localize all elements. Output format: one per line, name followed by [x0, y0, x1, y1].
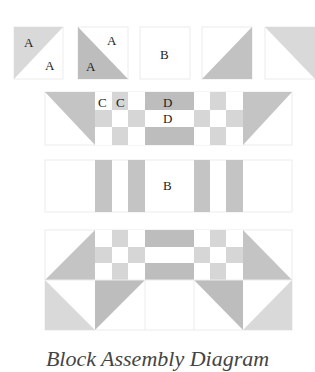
- unit-hst-light-top-left: A A: [14, 27, 63, 79]
- unit-triangle-dark-bottom-right: [202, 27, 252, 79]
- label-c1: C: [98, 95, 107, 110]
- bottom-assembly: [45, 230, 292, 330]
- diagram-caption: Block Assembly Diagram: [0, 346, 315, 372]
- label-d1: D: [163, 95, 172, 110]
- label-b-middle: B: [163, 178, 172, 193]
- top-strip: C C D D: [45, 92, 292, 145]
- label-d2: D: [163, 111, 172, 126]
- unit1-label-top: A: [24, 35, 34, 50]
- unit1-label-bottom: A: [45, 58, 55, 73]
- unit-square-b: B: [140, 27, 190, 79]
- unit2-label-top: A: [107, 33, 117, 48]
- unit-triangle-light-top-right: [265, 27, 315, 79]
- unit2-label-bottom: A: [86, 59, 96, 74]
- label-c2: C: [116, 95, 125, 110]
- units-row: A A A A B: [14, 27, 315, 79]
- middle-strip: B: [45, 160, 292, 212]
- unit3-label: B: [160, 47, 169, 62]
- unit-hst-dark-bottom-left: A A: [78, 27, 128, 79]
